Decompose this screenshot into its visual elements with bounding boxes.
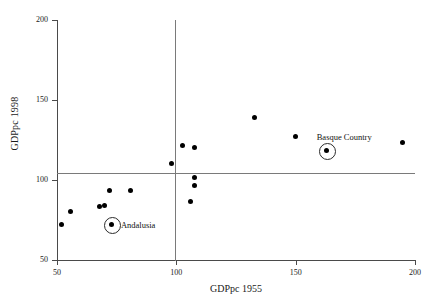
y-tick <box>52 180 57 181</box>
x-axis-title: GDPpc 1955 <box>57 283 415 294</box>
y-tick-label: 50 <box>24 255 48 264</box>
data-point[interactable] <box>169 161 174 166</box>
data-point[interactable] <box>107 188 112 193</box>
y-axis-line <box>57 20 58 261</box>
data-point[interactable] <box>400 140 405 145</box>
x-tick-label: 200 <box>400 268 430 277</box>
data-point[interactable] <box>324 148 329 153</box>
x-axis-line <box>57 260 415 261</box>
x-tick <box>415 260 416 265</box>
x-tick <box>296 260 297 265</box>
data-point[interactable] <box>192 145 197 150</box>
data-point[interactable] <box>293 134 298 139</box>
point-label: Andalusia <box>121 220 155 230</box>
point-label: Basque Country <box>317 132 372 142</box>
data-point[interactable] <box>68 209 73 214</box>
data-point[interactable] <box>109 222 114 227</box>
data-point[interactable] <box>252 115 257 120</box>
y-axis-title: GDPpc 1998 <box>9 79 20 169</box>
reference-line-x100 <box>175 20 176 261</box>
scatter-chart: 50100150200 50100150200 AndalusiaBasque … <box>0 0 439 307</box>
y-tick-label: 200 <box>24 15 48 24</box>
data-point[interactable] <box>102 203 107 208</box>
reference-line-y100 <box>57 173 415 174</box>
x-tick-label: 50 <box>42 268 72 277</box>
y-tick <box>52 20 57 21</box>
y-tick-label: 100 <box>24 175 48 184</box>
data-point[interactable] <box>128 188 133 193</box>
data-point[interactable] <box>192 175 197 180</box>
x-tick <box>176 260 177 265</box>
data-point[interactable] <box>192 183 197 188</box>
y-tick-label: 150 <box>24 95 48 104</box>
x-tick <box>57 260 58 265</box>
x-tick-label: 100 <box>161 268 191 277</box>
y-tick <box>52 100 57 101</box>
x-tick-label: 150 <box>281 268 311 277</box>
data-point[interactable] <box>188 199 193 204</box>
data-point[interactable] <box>180 143 185 148</box>
data-point[interactable] <box>59 222 64 227</box>
